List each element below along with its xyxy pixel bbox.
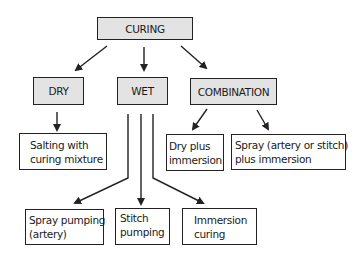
curing-flow-diagram: CURING DRY WET COMBINATION Salting with … bbox=[0, 0, 363, 260]
node-text-line: Salting with bbox=[30, 138, 96, 152]
node-curing-label: CURING bbox=[125, 22, 165, 36]
node-text-line: Spray (artery or stitch) bbox=[235, 138, 342, 152]
node-text-line: Stitch bbox=[120, 211, 165, 225]
arrow-curing-to-dry bbox=[76, 46, 107, 70]
node-wet: WET bbox=[117, 77, 168, 105]
node-text-line: pumping bbox=[120, 225, 165, 239]
arrow-combination-to-spray-plus bbox=[257, 110, 268, 129]
node-combination: COMBINATION bbox=[190, 78, 277, 105]
node-text-line: (artery) bbox=[29, 227, 100, 241]
arrow-combination-to-dry-plus bbox=[193, 109, 207, 129]
node-wet-label: WET bbox=[131, 84, 154, 98]
node-text-line: curing mixture bbox=[30, 152, 96, 166]
node-spray-pumping: Spray pumping (artery) bbox=[25, 209, 104, 245]
node-text-line: Spray pumping bbox=[29, 213, 100, 227]
node-immersion-curing: Immersion curing bbox=[182, 208, 257, 245]
node-salting-with-curing-mixture: Salting with curing mixture bbox=[19, 133, 107, 170]
node-dry-plus-immersion: Dry plus immersion bbox=[166, 134, 224, 171]
node-combination-label: COMBINATION bbox=[198, 85, 270, 99]
node-text-line: plus immersion bbox=[235, 152, 342, 166]
node-curing: CURING bbox=[97, 17, 193, 40]
node-stitch-pumping: Stitch pumping bbox=[115, 208, 170, 245]
arrow-curing-to-combination bbox=[181, 46, 206, 68]
node-text-line: Dry plus bbox=[169, 139, 221, 153]
node-dry: DRY bbox=[33, 77, 84, 105]
node-dry-label: DRY bbox=[48, 84, 68, 98]
node-text-line: Immersion bbox=[194, 213, 245, 227]
node-text-line: curing bbox=[194, 227, 245, 241]
node-text-line: immersion bbox=[169, 153, 221, 167]
node-spray-plus-immersion: Spray (artery or stitch) plus immersion bbox=[231, 134, 346, 170]
